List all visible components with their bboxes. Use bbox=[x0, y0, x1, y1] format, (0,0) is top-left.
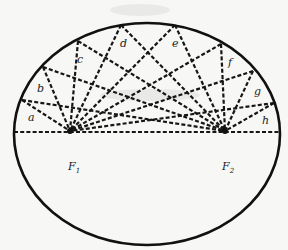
ray-h-f1 bbox=[70, 103, 274, 131]
ellipse-outline bbox=[14, 23, 280, 245]
ray-f-f2 bbox=[221, 44, 225, 131]
focus-point-f2 bbox=[222, 128, 228, 134]
point-label-e: e bbox=[172, 37, 179, 50]
point-label-h: h bbox=[262, 114, 269, 127]
ellipse-foci-diagram: abcdefghF1F2 bbox=[0, 0, 288, 250]
point-labels: abcdefghF1F2 bbox=[28, 37, 269, 175]
print-smudges bbox=[100, 4, 200, 101]
point-label-b: b bbox=[37, 82, 44, 95]
point-label-d: d bbox=[120, 37, 127, 50]
point-label-c: c bbox=[77, 53, 83, 66]
focus-label-f2: F2 bbox=[221, 160, 235, 175]
point-label-f: f bbox=[227, 56, 234, 69]
point-label-a: a bbox=[28, 111, 35, 124]
focus-label-f1: F1 bbox=[67, 160, 80, 175]
focus-point-f1 bbox=[67, 128, 73, 134]
ray-a-f2 bbox=[22, 100, 225, 131]
point-label-g: g bbox=[254, 85, 261, 98]
reflection-rays bbox=[22, 25, 274, 131]
